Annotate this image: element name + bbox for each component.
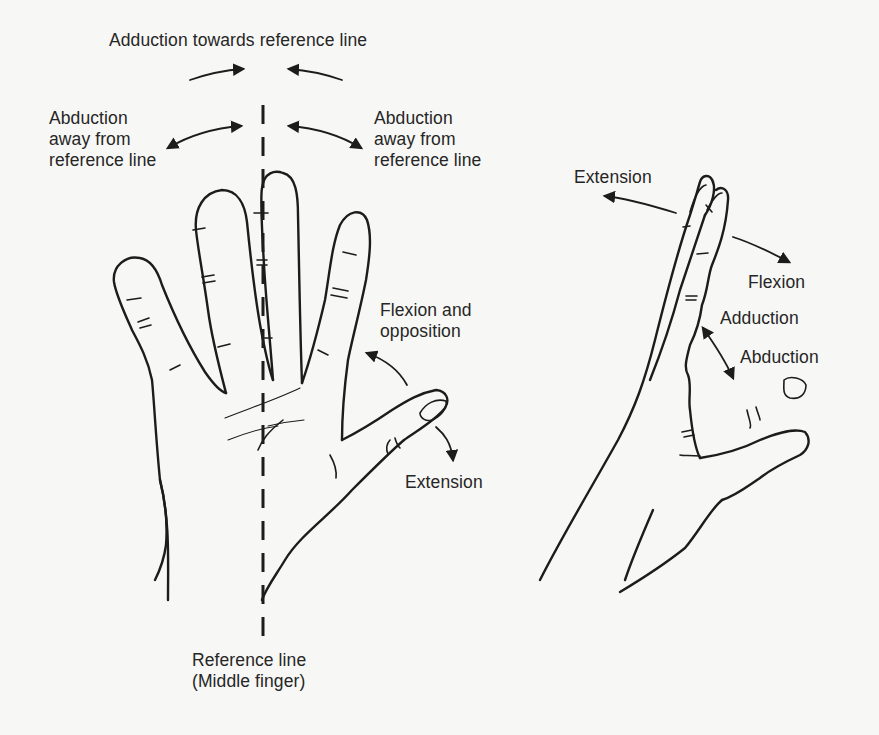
label-adduction-towards: Adduction towards reference line — [109, 30, 367, 51]
label-adduction-side: Adduction — [720, 308, 799, 329]
label-reference-line: Reference line (Middle finger) — [192, 650, 306, 692]
label-flexion-side: Flexion — [748, 272, 805, 293]
hand-palm-icon — [114, 172, 448, 600]
hand-movements-diagram: Adduction towards reference line Abducti… — [0, 0, 879, 735]
label-extension-palm: Extension — [405, 472, 483, 493]
label-flexion-opposition: Flexion and opposition — [380, 300, 472, 342]
label-abduction-away-left: Abduction away from reference line — [49, 108, 156, 171]
hand-side-icon — [540, 176, 809, 592]
label-abduction-away-right: Abduction away from reference line — [374, 108, 481, 171]
label-extension-side: Extension — [574, 167, 652, 188]
label-abduction-side: Abduction — [740, 347, 819, 368]
